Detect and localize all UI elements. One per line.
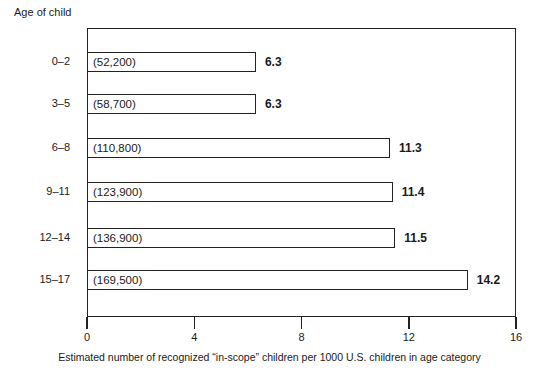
category-label: 3–5 [10,97,70,109]
bar-count-annotation: (123,900) [93,185,142,199]
x-tick-label: 0 [72,331,102,343]
bar-count-annotation: (58,700) [93,97,136,111]
bar-value-label: 11.5 [404,231,427,245]
bar-value-label: 6.3 [265,55,282,69]
bar: (58,700) [87,94,256,114]
category-label: 15–17 [10,273,70,285]
x-tick [86,317,88,329]
bar-count-annotation: (136,900) [93,231,142,245]
bar: (136,900) [87,228,395,248]
x-tick-label: 12 [394,331,424,343]
bar: (123,900) [87,182,393,202]
x-tick [408,317,410,329]
x-tick-label: 16 [501,331,531,343]
bar: (169,500) [87,270,468,290]
category-label: 0–2 [10,55,70,67]
category-label: 6–8 [10,141,70,153]
bar-count-annotation: (169,500) [93,273,142,287]
bar-count-annotation: (110,800) [93,141,141,155]
bar: (52,200) [87,52,256,72]
x-tick [301,317,303,329]
x-tick [515,317,517,329]
bar-value-label: 11.4 [402,185,425,199]
bar-value-label: 6.3 [265,97,282,111]
x-tick-label: 8 [287,331,317,343]
x-axis-title: Estimated number of recognized “in-scope… [0,351,539,363]
bar-value-label: 14.2 [477,273,500,287]
category-label: 12–14 [10,231,70,243]
bar-count-annotation: (52,200) [93,55,136,69]
category-label: 9–11 [10,185,70,197]
y-axis-title: Age of child [14,6,71,18]
x-tick [194,317,196,329]
x-tick-label: 4 [179,331,209,343]
bar-value-label: 11.3 [399,141,422,155]
bar: (110,800) [87,138,390,158]
